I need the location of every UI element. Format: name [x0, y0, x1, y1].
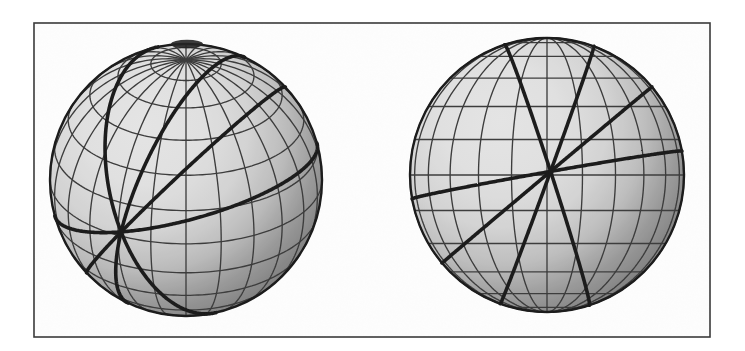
- north-pole-node: [171, 40, 203, 48]
- great-circle-crossing-node: [548, 169, 553, 174]
- figure-container: [0, 0, 745, 351]
- left-sphere-panel: [50, 40, 322, 316]
- sphere-figure: [0, 0, 745, 351]
- right-sphere-panel: [410, 38, 684, 312]
- great-circle-crossing-node: [118, 229, 123, 234]
